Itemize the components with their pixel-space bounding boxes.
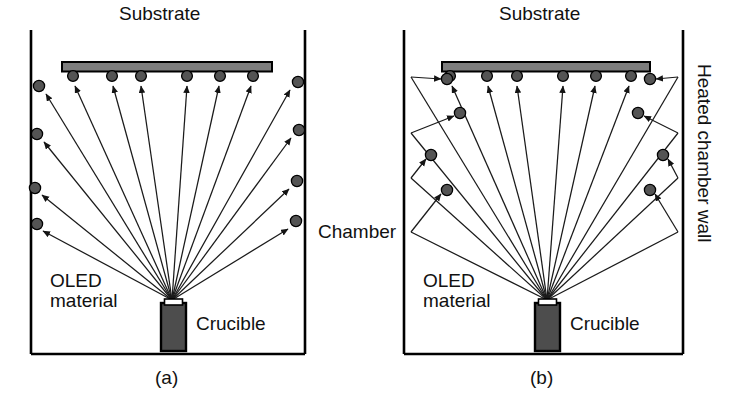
particle — [632, 107, 643, 118]
particle — [31, 128, 42, 139]
particle — [290, 215, 301, 226]
particle — [626, 71, 637, 82]
particle — [512, 71, 523, 82]
particle — [441, 73, 452, 84]
panel-b-right-reflected-particles — [632, 73, 668, 195]
particle — [248, 71, 259, 82]
figure-root: Substrate OLED material Crucible (a) Cha… — [0, 0, 746, 401]
panel-b-crucible-label: Crucible — [570, 314, 640, 334]
panel-a-right-wall-rays — [172, 90, 291, 300]
panel-b-caption: (b) — [530, 368, 553, 388]
panel-a-oled-material-line1: OLED — [50, 271, 118, 291]
particle — [644, 73, 655, 84]
particle — [292, 76, 303, 87]
panel-b-oled-material-label: OLED material — [423, 271, 491, 311]
panel-b-right-outgoing-legs — [547, 77, 678, 300]
panel-a-crucible — [161, 299, 186, 351]
particle — [454, 107, 465, 118]
particle — [29, 182, 40, 193]
particle — [33, 80, 44, 91]
panel-a-substrate-label: Substrate — [119, 4, 200, 24]
panel-b-substrate-label: Substrate — [499, 4, 580, 24]
panel-b-substrate-rays — [452, 86, 629, 300]
chamber-label: Chamber — [318, 222, 396, 242]
particle — [482, 71, 493, 82]
particle — [591, 71, 602, 82]
panel-b-substrate-bar — [442, 62, 650, 72]
panel-b-oled-material-line1: OLED — [423, 271, 491, 291]
particle — [31, 218, 42, 229]
particle — [425, 149, 436, 160]
particle — [68, 71, 79, 82]
particle — [293, 124, 304, 135]
panel-b-oled-material-line2: material — [423, 291, 491, 311]
panel-a-oled-material-label: OLED material — [50, 271, 118, 311]
panel-a-caption: (a) — [155, 368, 178, 388]
panel-b-crucible — [535, 299, 560, 351]
particle — [136, 71, 147, 82]
particle — [215, 71, 226, 82]
particle — [657, 149, 668, 160]
panel-a-oled-material-line2: material — [50, 291, 118, 311]
particle — [291, 175, 302, 186]
particle — [441, 184, 452, 195]
particle — [182, 71, 193, 82]
heated-chamber-wall-label: Heated chamber wall — [694, 64, 714, 242]
particle — [644, 184, 655, 195]
panel-a-substrate-bar — [62, 62, 272, 72]
particle — [558, 71, 569, 82]
panel-a-crucible-label: Crucible — [196, 314, 266, 334]
diagram-canvas — [0, 0, 746, 401]
panel-b-left-outgoing-legs — [411, 77, 547, 300]
panel-a-right-wall-particles — [290, 76, 304, 226]
particle — [107, 71, 118, 82]
